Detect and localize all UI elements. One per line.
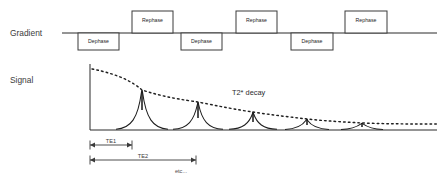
signal-echo-4 xyxy=(285,119,329,129)
gradient-rephase-lobe-2: Rephase xyxy=(236,11,277,33)
gradient-row-label: Gradient xyxy=(10,28,43,38)
rephase-box-2-label: Rephase xyxy=(246,17,267,23)
te1-measure: TE1 xyxy=(90,138,132,150)
timing-measurements: TE1 TE2 etc... xyxy=(90,138,196,174)
signal-row-label: Signal xyxy=(10,75,33,85)
gradient-dephase-lobe-3: Dephase xyxy=(291,33,333,50)
gradient-row: Dephase Rephase Dephase Rephase Dephase xyxy=(62,11,437,50)
signal-row: T2* decay xyxy=(90,64,437,130)
gradient-dephase-lobe-2: Dephase xyxy=(181,33,222,50)
gradient-rephase-lobe-3: Rephase xyxy=(345,11,387,33)
dephase-box-3-label: Dephase xyxy=(302,38,323,44)
te2-right-arrowhead xyxy=(191,158,196,163)
te1-right-arrowhead xyxy=(127,143,132,148)
rephase-box-3-label: Rephase xyxy=(356,17,377,23)
signal-echo-3 xyxy=(229,112,277,129)
mri-pulse-sequence-diagram: Dephase Rephase Dephase Rephase Dephase xyxy=(0,0,442,179)
diagram-canvas: Dephase Rephase Dephase Rephase Dephase xyxy=(0,0,442,179)
te2-measure: TE2 xyxy=(90,153,196,165)
dephase-box-2-label: Dephase xyxy=(191,38,212,44)
gradient-rephase-lobe-1: Rephase xyxy=(132,11,173,33)
gradient-dephase-lobe-1: Dephase xyxy=(78,33,119,50)
te1-left-arrowhead xyxy=(90,143,95,148)
dephase-box-1-label: Dephase xyxy=(88,38,109,44)
te1-label: TE1 xyxy=(106,138,116,144)
signal-echo-1 xyxy=(116,90,168,129)
rephase-box-1-label: Rephase xyxy=(142,17,163,23)
te2-label: TE2 xyxy=(138,153,148,159)
t2-star-decay-label: T2* decay xyxy=(232,88,266,97)
etc-label: etc... xyxy=(175,168,188,174)
te2-left-arrowhead xyxy=(90,158,95,163)
